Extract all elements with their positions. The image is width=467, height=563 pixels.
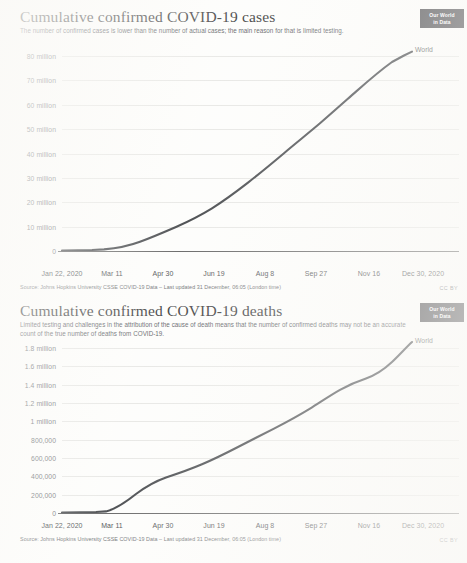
plot-area-deaths: 1.8 million 1.6 million 1.4 million 1.2 … bbox=[0, 336, 467, 520]
xtick-cases-7: Dec 30, 2020 bbox=[402, 270, 444, 277]
xtick-deaths-7: Dec 30, 2020 bbox=[402, 522, 444, 529]
cc-license-deaths: CC BY bbox=[440, 537, 458, 543]
xtick-deaths-4: Aug 8 bbox=[256, 522, 275, 529]
series-label-cases-world: World bbox=[415, 46, 433, 53]
xtick-deaths-3: Jun 19 bbox=[203, 522, 224, 529]
source-note-deaths: Source: Johns Hopkins University CSSE CO… bbox=[20, 536, 281, 542]
world-deaths-line bbox=[62, 342, 412, 513]
chart-cumulative-confirmed-cases: Cumulative confirmed COVID-19 cases The … bbox=[0, 4, 467, 294]
xtick-cases-1: Mar 11 bbox=[101, 270, 123, 277]
xtick-deaths-0: Jan 22, 2020 bbox=[41, 522, 82, 529]
world-cases-line bbox=[62, 52, 412, 251]
our-world-in-data-logo[interactable]: Our World in Data bbox=[420, 9, 464, 28]
scanned-page: Cumulative confirmed COVID-19 cases The … bbox=[0, 0, 467, 563]
chart-title-cases: Cumulative confirmed COVID-19 cases bbox=[20, 8, 275, 26]
chart-title-deaths: Cumulative confirmed COVID-19 deaths bbox=[20, 302, 282, 320]
xaxis-cases: Jan 22, 2020 Mar 11 Apr 30 Jun 19 Aug 8 … bbox=[0, 270, 467, 282]
plot-area-cases: 80 million 70 million 60 million 50 mill… bbox=[0, 46, 467, 268]
series-label-deaths-world: World bbox=[415, 337, 433, 344]
logo-line-2: in Data bbox=[420, 19, 464, 25]
xtick-deaths-2: Apr 30 bbox=[153, 522, 174, 529]
xtick-cases-5: Sep 27 bbox=[305, 270, 328, 277]
xtick-cases-4: Aug 8 bbox=[256, 270, 275, 277]
data-line-svg-cases bbox=[0, 46, 467, 268]
xtick-deaths-5: Sep 27 bbox=[305, 522, 328, 529]
data-line-svg-deaths bbox=[0, 336, 467, 520]
xtick-cases-6: Nov 16 bbox=[358, 270, 380, 277]
xtick-cases-0: Jan 22, 2020 bbox=[41, 270, 82, 277]
xaxis-deaths: Jan 22, 2020 Mar 11 Apr 30 Jun 19 Aug 8 … bbox=[0, 522, 467, 534]
xtick-deaths-1: Mar 11 bbox=[101, 522, 123, 529]
chart-subtitle-cases: The number of confirmed cases is lower t… bbox=[20, 27, 412, 36]
source-note-cases: Source: Johns Hopkins University CSSE CO… bbox=[20, 284, 281, 290]
xtick-deaths-6: Nov 16 bbox=[358, 522, 380, 529]
chart-cumulative-confirmed-deaths: Cumulative confirmed COVID-19 deaths Lim… bbox=[0, 298, 467, 560]
logo-line-2: in Data bbox=[420, 313, 464, 319]
xtick-cases-3: Jun 19 bbox=[203, 270, 224, 277]
cc-license-cases: CC BY bbox=[440, 285, 458, 291]
our-world-in-data-logo-deaths[interactable]: Our World in Data bbox=[420, 303, 464, 322]
xtick-cases-2: Apr 30 bbox=[153, 270, 174, 277]
